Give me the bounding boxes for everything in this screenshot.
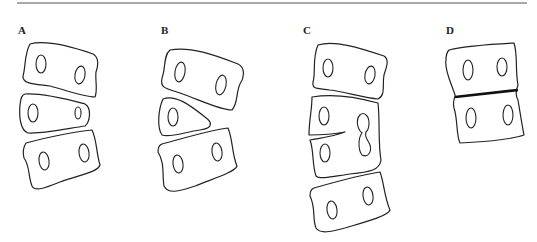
panel-d: D bbox=[446, 24, 524, 143]
fusion-line bbox=[455, 90, 518, 97]
foramen-icon bbox=[28, 104, 38, 122]
foramen-icon bbox=[38, 151, 50, 170]
panel-b-label: B bbox=[161, 24, 169, 36]
panel-c-label: C bbox=[303, 24, 311, 36]
foramen-icon bbox=[172, 154, 184, 173]
foramen-icon bbox=[36, 55, 46, 73]
foramen-icon bbox=[466, 108, 476, 128]
panel-a: A bbox=[18, 24, 100, 189]
foramen-icon bbox=[75, 107, 81, 119]
panel-d-label: D bbox=[446, 24, 454, 36]
vertebra-b3 bbox=[158, 128, 237, 191]
foramen-icon bbox=[319, 107, 329, 125]
foramen-icon bbox=[78, 143, 90, 162]
foramen-icon bbox=[214, 74, 228, 96]
foramen-icon bbox=[168, 108, 178, 126]
vertebra-c4 bbox=[310, 172, 390, 232]
foramen-icon bbox=[211, 142, 223, 161]
foramen-icon bbox=[364, 65, 377, 84]
foramen-icon bbox=[323, 59, 333, 77]
foramen-icon bbox=[463, 60, 473, 80]
foramen-icon bbox=[326, 200, 338, 219]
vertebra-c1 bbox=[313, 43, 387, 99]
vertebra-b1 bbox=[162, 49, 244, 110]
fused-foramen-icon bbox=[357, 114, 370, 156]
vertebra-b2 bbox=[159, 98, 211, 136]
foramen-icon bbox=[503, 105, 513, 125]
foramen-icon bbox=[362, 186, 374, 205]
vertebra-a2 bbox=[20, 94, 90, 133]
foramen-icon bbox=[497, 58, 507, 76]
panel-b: B bbox=[158, 24, 244, 191]
vertebrae-diagram: A B C D bbox=[0, 0, 537, 242]
vertebra-a1 bbox=[23, 43, 98, 97]
panel-a-label: A bbox=[18, 24, 26, 36]
foramen-icon bbox=[320, 144, 330, 162]
panel-c: C bbox=[303, 24, 390, 232]
vertebra-c2-c3-fused bbox=[309, 96, 381, 178]
foramen-icon bbox=[74, 65, 87, 84]
foramen-icon bbox=[173, 61, 186, 82]
